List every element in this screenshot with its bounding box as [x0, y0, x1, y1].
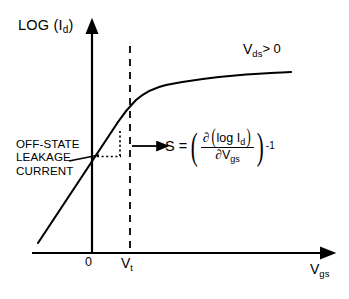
formula-vgs-subscript: gs	[230, 154, 240, 164]
formula-denominator: ∂Vgs	[201, 148, 254, 164]
x-axis-label-subscript: gs	[319, 268, 329, 279]
bias-condition-label: Vds> 0	[243, 42, 281, 59]
formula-id-subscript: d	[240, 137, 245, 147]
threshold-tick-subscript: t	[130, 262, 133, 273]
y-axis-label-prefix: LOG (I	[18, 17, 63, 33]
formula-vgs-main: V	[222, 148, 230, 162]
bias-condition-subscript: ds	[252, 48, 262, 59]
formula-inner-close-paren: )	[247, 129, 251, 145]
threshold-tick-main: V	[121, 255, 130, 271]
bias-condition-relation: > 0	[262, 41, 280, 56]
x-axis-label-main: V	[310, 261, 319, 277]
formula-open-paren: (	[191, 132, 198, 162]
subthreshold-slope-figure: LOG (Id) Vds> 0 OFF-STATE LEAKAGE CURREN…	[0, 0, 349, 299]
off-state-line-3: CURRENT	[16, 164, 80, 177]
formula-close-paren: )	[257, 132, 264, 162]
formula-inner-open-paren: (	[211, 129, 215, 145]
threshold-voltage-tick-label: Vt	[121, 256, 133, 273]
partial-derivative-symbol-num: ∂	[203, 130, 210, 145]
partial-derivative-symbol-den: ∂	[215, 147, 222, 162]
formula-exponent: -1	[266, 141, 275, 152]
origin-tick-label: 0	[85, 256, 92, 269]
off-state-leakage-current-label: OFF-STATE LEAKAGE CURRENT	[16, 137, 80, 177]
formula-log-id: log I	[217, 131, 241, 145]
off-state-line-1: OFF-STATE	[16, 137, 80, 150]
bias-condition-main: V	[243, 41, 252, 57]
y-axis-label: LOG (Id)	[18, 18, 74, 36]
y-axis-label-suffix: )	[68, 17, 73, 33]
subthreshold-slope-formula: S = ( ∂(log Id) ∂Vgs ) -1	[165, 128, 275, 165]
off-state-line-2: LEAKAGE	[16, 150, 80, 163]
formula-numerator: ∂(log Id)	[201, 128, 254, 148]
formula-lhs: S =	[165, 139, 187, 154]
x-axis-label: Vgs	[310, 262, 329, 279]
formula-fraction: ∂(log Id) ∂Vgs	[201, 128, 254, 165]
